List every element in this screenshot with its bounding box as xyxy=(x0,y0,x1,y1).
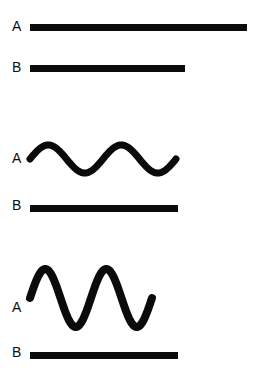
series-label-a: A xyxy=(12,19,21,33)
series-label-a: A xyxy=(12,151,21,165)
series-label-a: A xyxy=(12,300,21,314)
series-label-b: B xyxy=(12,345,21,359)
sinusoid-waveform xyxy=(30,130,176,178)
sinusoid-waveform xyxy=(30,252,152,322)
sinusoid-path xyxy=(30,269,152,327)
series-label-b: B xyxy=(12,198,21,212)
straight-waveform-bar xyxy=(30,205,178,212)
wave-comparison-figure: ABABAB xyxy=(0,0,257,375)
straight-waveform-bar xyxy=(30,65,185,72)
series-label-b: B xyxy=(12,60,21,74)
straight-waveform-bar xyxy=(30,24,247,31)
sinusoid-path xyxy=(30,145,176,173)
straight-waveform-bar xyxy=(30,352,178,359)
